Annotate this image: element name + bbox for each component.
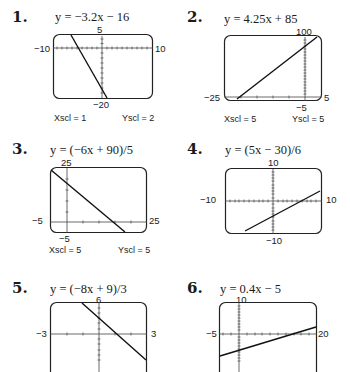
xscl-label-2: Xscl = 5: [224, 114, 256, 124]
equation-6: y = 0.4x − 5: [220, 282, 281, 297]
yscl-label-1: Yscl = 2: [122, 113, 154, 123]
equation-5: y = (−8x + 9)/3: [50, 282, 127, 297]
equation-4: y = (5x − 30)/6: [225, 143, 301, 158]
graph-1: [53, 34, 153, 99]
equation-3: y = (−6x + 90)/5: [50, 143, 133, 158]
graph-6: [219, 302, 317, 372]
equation-2: y = 4.25x + 85: [224, 12, 297, 27]
ymax-label-4: 10: [268, 157, 279, 168]
xmax-label-1: 10: [155, 43, 166, 54]
xmin-label-3: −5: [32, 215, 43, 226]
graph-4: [225, 168, 322, 234]
problem-number-1: 1.: [12, 8, 28, 26]
graph-2: [224, 35, 322, 101]
xmax-label-5: 3: [151, 328, 156, 339]
xscl-label-1: Xscl = 1: [54, 113, 86, 123]
xmin-label-2: −25: [204, 92, 220, 103]
yscl-label-3: Yscl = 5: [118, 245, 150, 255]
graph-5: [50, 302, 147, 372]
ymin-label-3: −5: [59, 233, 70, 244]
equation-1: y = −3.2x − 16: [55, 10, 129, 25]
xscl-label-3: Xscl = 5: [49, 245, 81, 255]
ymin-label-1: −20: [93, 99, 109, 110]
ymin-label-4: −10: [266, 235, 282, 246]
graph-3: [50, 167, 147, 233]
yscl-label-2: Yscl = 5: [292, 114, 324, 124]
xmax-label-2: 5: [324, 92, 329, 103]
xmin-label-5: −3: [36, 328, 47, 339]
problem-number-6: 6.: [187, 279, 203, 297]
problem-number-3: 3.: [12, 140, 28, 158]
xmax-label-6: 20: [318, 328, 329, 339]
xmin-label-1: −10: [34, 43, 50, 54]
xmax-label-4: 10: [326, 194, 337, 205]
problem-number-4: 4.: [187, 140, 203, 158]
problem-number-5: 5.: [12, 279, 28, 297]
ymin-label-2: −5: [296, 102, 307, 113]
xmax-label-3: 25: [149, 215, 160, 226]
xmin-label-4: −10: [200, 194, 216, 205]
xmin-label-6: −5: [206, 328, 217, 339]
problem-number-2: 2.: [187, 8, 203, 26]
